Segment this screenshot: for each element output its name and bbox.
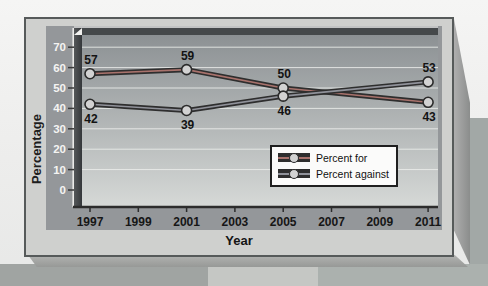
percent-against-line-swatch <box>278 169 310 178</box>
svg-text:10: 10 <box>53 164 66 176</box>
svg-text:2009: 2009 <box>366 215 393 229</box>
svg-text:43: 43 <box>422 110 436 124</box>
svg-text:30: 30 <box>53 123 66 135</box>
chart-plaque: Percentage 01020304050607019971999200120… <box>24 17 454 257</box>
background-block-bottom-mid <box>208 264 318 286</box>
svg-text:50: 50 <box>278 67 292 81</box>
legend-item-percent-against: Percent against <box>278 167 390 180</box>
svg-text:53: 53 <box>422 61 436 75</box>
legend-label: Percent for <box>316 152 367 164</box>
svg-text:20: 20 <box>53 143 66 155</box>
plaque-3d-edge-right <box>454 19 470 265</box>
svg-text:2007: 2007 <box>318 215 345 229</box>
line-chart: 0102030405060701997199920012003200520072… <box>46 26 442 230</box>
svg-text:42: 42 <box>84 112 98 126</box>
svg-text:59: 59 <box>181 49 195 63</box>
svg-text:70: 70 <box>53 41 66 53</box>
svg-text:50: 50 <box>53 82 66 94</box>
svg-text:2001: 2001 <box>173 215 200 229</box>
legend-label: Percent against <box>316 168 389 180</box>
svg-text:60: 60 <box>53 62 66 74</box>
svg-text:1999: 1999 <box>125 215 152 229</box>
chart-legend: Percent for Percent against <box>270 145 398 187</box>
svg-text:2003: 2003 <box>222 215 249 229</box>
marker-dot-icon <box>289 153 299 163</box>
page: Percentage 01020304050607019971999200120… <box>0 0 488 286</box>
background-block-bottom-left <box>0 264 208 286</box>
plot-canvas: 0102030405060701997199920012003200520072… <box>46 26 442 230</box>
svg-text:2011: 2011 <box>415 215 441 229</box>
svg-text:40: 40 <box>53 102 66 114</box>
marker-dot-icon <box>289 169 299 179</box>
svg-text:46: 46 <box>278 104 292 118</box>
percent-for-line-swatch <box>278 153 310 162</box>
svg-text:1997: 1997 <box>77 215 104 229</box>
svg-text:2005: 2005 <box>270 215 297 229</box>
legend-item-percent-for: Percent for <box>278 151 390 164</box>
background-block-right-edge <box>470 118 488 264</box>
svg-text:39: 39 <box>181 118 195 132</box>
svg-text:57: 57 <box>84 53 98 67</box>
x-axis-title: Year <box>26 233 452 248</box>
background-block-bottom-right <box>318 264 488 286</box>
svg-text:0: 0 <box>60 184 66 196</box>
